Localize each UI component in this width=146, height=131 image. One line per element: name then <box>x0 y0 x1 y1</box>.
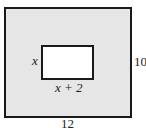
inner-height-label: x <box>32 54 38 67</box>
inner-rectangle <box>41 45 94 80</box>
inner-width-label: x + 2 <box>55 81 83 94</box>
outer-width-label: 12 <box>61 117 74 130</box>
outer-height-label: 10 <box>134 55 146 68</box>
